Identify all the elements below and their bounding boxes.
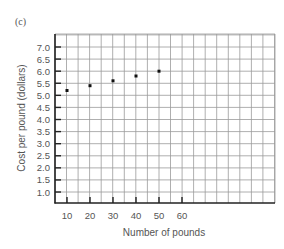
x-tick-label: 10 xyxy=(62,210,73,221)
x-tick-label: 50 xyxy=(154,210,165,221)
x-axis-title: Number of pounds xyxy=(123,227,205,238)
y-axis-title: Cost per pound (dollars) xyxy=(16,64,27,171)
y-tick-label: 2.0 xyxy=(37,162,50,173)
data-point xyxy=(66,89,69,92)
y-tick-label: 5.0 xyxy=(37,90,50,101)
y-tick-label: 7.0 xyxy=(37,42,50,53)
data-point xyxy=(158,70,161,73)
y-tick-label: 6.5 xyxy=(37,54,50,65)
y-tick-label: 3.0 xyxy=(37,138,50,149)
y-tick-label: 6.0 xyxy=(37,66,50,77)
y-tick-label: 1.0 xyxy=(37,187,50,198)
data-point xyxy=(112,79,115,82)
x-tick-label: 60 xyxy=(177,210,188,221)
y-tick-label: 3.5 xyxy=(37,126,50,137)
grid xyxy=(55,34,275,203)
y-tick-label: 2.5 xyxy=(37,150,50,161)
x-tick-label: 30 xyxy=(108,210,119,221)
y-tick-label: 4.0 xyxy=(37,114,50,125)
data-point xyxy=(135,75,138,78)
y-tick-label: 4.5 xyxy=(37,102,50,113)
x-tick-label: 20 xyxy=(85,210,96,221)
y-axis: 7.06.56.05.55.04.54.03.53.02.52.01.51.0 xyxy=(37,42,61,198)
data-point xyxy=(89,84,92,87)
scatter-chart: 7.06.56.05.55.04.54.03.53.02.52.01.51.0 … xyxy=(0,0,284,249)
y-tick-label: 1.5 xyxy=(37,174,50,185)
x-tick-label: 40 xyxy=(131,210,142,221)
y-tick-label: 5.5 xyxy=(37,78,50,89)
